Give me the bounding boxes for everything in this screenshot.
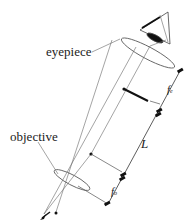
diagram-graphics [0,0,193,224]
tube-length-label: L [141,136,148,152]
object-arrow [40,212,58,221]
eyepiece-label: eyepiece [46,44,91,60]
objective-label: objective [10,129,58,145]
intermediate-image-arrow [122,87,148,101]
microscope-diagram: eyepiece objective fe L fo [0,0,193,224]
eyepiece-lens [119,34,178,73]
objective-focal-label: fo [111,185,117,197]
objective-lens [52,166,92,194]
eyepiece-focal-label: fe [167,83,173,95]
